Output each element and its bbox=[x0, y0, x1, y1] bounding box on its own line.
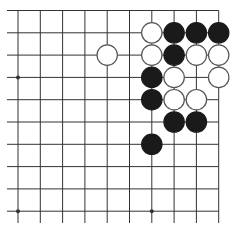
board-grid bbox=[7, 11, 219, 224]
black-stone-icon bbox=[164, 45, 184, 65]
black-stone-icon bbox=[142, 67, 162, 87]
white-stone-icon bbox=[97, 45, 117, 65]
black-stone-icon bbox=[186, 23, 206, 43]
white-stone-icon bbox=[209, 45, 229, 65]
star-point-icon bbox=[16, 209, 20, 213]
star-point-icon bbox=[150, 209, 154, 213]
star-point-icon bbox=[16, 75, 20, 79]
white-stone-icon bbox=[142, 45, 162, 65]
go-board bbox=[0, 0, 232, 234]
white-stone-icon bbox=[164, 90, 184, 110]
black-stone-icon bbox=[142, 90, 162, 110]
black-stone-icon bbox=[186, 112, 206, 132]
white-stone-icon bbox=[209, 67, 229, 87]
white-stone-icon bbox=[142, 23, 162, 43]
stones-layer bbox=[97, 23, 229, 155]
black-stone-icon bbox=[164, 112, 184, 132]
white-stone-icon bbox=[186, 90, 206, 110]
white-stone-icon bbox=[164, 67, 184, 87]
black-stone-icon bbox=[142, 134, 162, 154]
black-stone-icon bbox=[209, 23, 229, 43]
black-stone-icon bbox=[164, 23, 184, 43]
white-stone-icon bbox=[186, 45, 206, 65]
